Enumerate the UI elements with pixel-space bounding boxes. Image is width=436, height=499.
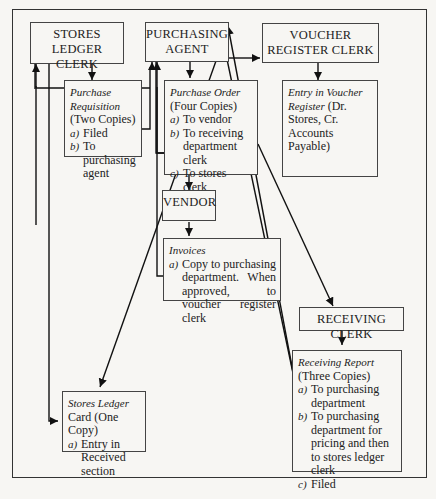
voucher-register-clerk-label: VOUCHER REGISTER CLERK: [263, 24, 378, 58]
purchase-requisition-subtitle: (Two Copies): [70, 112, 135, 126]
purchase-requisition-title: Purchase Requisition: [70, 86, 120, 112]
item-letter: b): [70, 140, 83, 181]
purchase-order-doc: Purchase Order (Four Copies) a)To vendor…: [164, 80, 258, 175]
list-item: a)To vendor: [170, 113, 253, 127]
item-text: To purchasing agent: [83, 140, 137, 181]
receiving-report-subtitle: (Three Copies): [298, 369, 370, 383]
purchase-order-title: Purchase Order: [170, 86, 240, 98]
list-item: b)To purchasing department for pricing a…: [298, 410, 397, 478]
invoices-doc: Invoices a)Copy to purchasing department…: [163, 238, 281, 301]
voucher-entry-doc: Entry in Voucher Register (Dr. Stores, C…: [282, 80, 378, 177]
receiving-report-title: Receiving Report: [298, 356, 374, 368]
stores-ledger-card-doc: Stores Ledger Card (One Copy) a)Entry in…: [62, 391, 146, 452]
stores-ledger-card-title: Stores Ledger: [68, 397, 129, 409]
purchase-requisition-doc: Purchase Requisition (Two Copies) a)File…: [64, 80, 142, 157]
item-text: To receiving department clerk: [183, 127, 253, 168]
item-text: To purchasing department: [311, 383, 397, 410]
purchasing-agent-node: PURCHASING AGENT: [145, 22, 229, 62]
list-item: a)Filed: [70, 127, 137, 141]
item-letter: a): [170, 113, 183, 127]
item-text: To purchasing department for pricing and…: [311, 410, 397, 478]
vendor-node: VENDOR: [162, 190, 216, 221]
list-item: c)Filed: [298, 478, 397, 492]
item-letter: c): [298, 478, 311, 492]
voucher-register-clerk-node: VOUCHER REGISTER CLERK: [262, 23, 379, 63]
receiving-clerk-label: RECEIVING CLERK: [300, 308, 403, 342]
purchasing-agent-label: PURCHASING AGENT: [146, 23, 228, 57]
item-letter: a): [68, 438, 81, 479]
item-text: Filed: [311, 478, 336, 492]
list-item: a)Entry in Received section: [68, 438, 141, 479]
stores-ledger-clerk-label: STORES LEDGER CLERK: [31, 23, 123, 72]
vendor-label: VENDOR: [163, 191, 215, 210]
item-letter: a): [70, 127, 83, 141]
item-text: Filed: [83, 127, 108, 141]
list-item: a)To purchasing department: [298, 383, 397, 410]
item-text: Entry in Received section: [81, 438, 141, 479]
item-letter: a): [169, 258, 182, 326]
purchase-order-subtitle: (Four Copies): [170, 99, 237, 113]
receiving-report-doc: Receiving Report (Three Copies) a)To pur…: [292, 350, 402, 472]
item-text: Copy to purchasing department. When appr…: [182, 258, 276, 326]
receiving-clerk-node: RECEIVING CLERK: [299, 307, 404, 331]
item-text: To vendor: [183, 113, 232, 127]
list-item: b)To purchasing agent: [70, 140, 137, 181]
list-item: a)Copy to purchasing department. When ap…: [169, 258, 276, 326]
item-letter: a): [298, 383, 311, 410]
item-letter: b): [298, 410, 311, 478]
invoices-title: Invoices: [169, 244, 206, 256]
list-item: b)To receiving department clerk: [170, 127, 253, 168]
stores-ledger-clerk-node: STORES LEDGER CLERK: [30, 22, 124, 64]
item-letter: b): [170, 127, 183, 168]
stores-ledger-card-subtitle: Card (One Copy): [68, 410, 118, 438]
